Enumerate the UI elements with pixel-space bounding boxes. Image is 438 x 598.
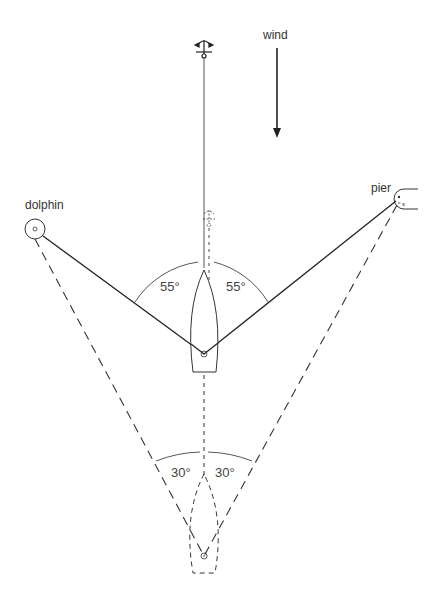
- line-pier-lower: [204, 205, 397, 556]
- pier-label: pier: [371, 181, 391, 195]
- anchor-secondary-icon: [203, 210, 215, 227]
- svg-text:ᵒ s: ᵒ s: [398, 201, 405, 207]
- dolphin-icon: [25, 219, 45, 239]
- angle-arc-lower-left: [156, 452, 200, 461]
- boat-drifted-icon: [190, 474, 218, 573]
- wind-label: wind: [262, 28, 288, 42]
- angle-label-upper-left: 55°: [160, 279, 180, 294]
- line-dolphin-upper: [43, 236, 204, 354]
- angle-label-upper-right: 55°: [226, 279, 246, 294]
- angle-label-lower-left: 30°: [171, 465, 191, 480]
- wind-arrow-icon: [273, 48, 281, 138]
- anchor-icon: [195, 40, 213, 58]
- boat-current-icon: [191, 270, 218, 372]
- mooring-diagram: wind dolphin pier ᵒ s 55° 55°: [0, 0, 438, 598]
- angle-arc-lower-right: [208, 452, 252, 461]
- dolphin-label: dolphin: [25, 198, 64, 212]
- line-pier-upper: [204, 201, 396, 354]
- angle-label-lower-right: 30°: [215, 465, 235, 480]
- pier-icon: ᵒ s: [394, 189, 418, 209]
